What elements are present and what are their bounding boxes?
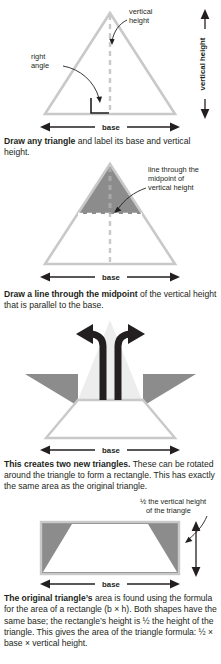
base-arrow-left: [40, 272, 50, 281]
base-label: base: [102, 123, 120, 132]
panel-1-caption: Draw any triangle and label its base and…: [0, 136, 221, 159]
panel-3-caption: This creates two new triangles. These ca…: [0, 459, 221, 493]
panel-3: base This creates two new triangles. The…: [0, 312, 221, 493]
panel-4-figure: ½ the vertical height of the triangle: [0, 493, 221, 591]
right-angle-callout-arrowhead: [96, 97, 102, 103]
panel-2-caption-bold: Draw a line through the midpoint: [4, 289, 138, 299]
panel-4-caption-bold: The original triangle’s: [4, 593, 93, 603]
panel-4-caption: The original triangle’s area is found us…: [0, 593, 221, 650]
base-arrow-right: [170, 272, 180, 281]
panel-1: vertical height right angle base: [0, 0, 221, 159]
base-arrow-right: [170, 579, 180, 588]
base-arrow-left: [40, 123, 50, 132]
panel-2: line through the midpoint of vertical he…: [0, 159, 221, 312]
right-angle-callout-leader: [63, 66, 99, 98]
half-height-callout-line2: of the triangle: [146, 506, 191, 515]
base-arrow-right: [170, 123, 180, 132]
panel-1-figure: vertical height right angle base: [0, 1, 221, 135]
vertical-height-callout-line2: height: [129, 16, 149, 25]
rotation-arrow-left-head: [76, 324, 93, 344]
midline-callout-line2: midpoint of: [148, 174, 185, 183]
midline-callout-line3: vertical height: [148, 183, 194, 192]
base-arrow-left: [40, 445, 50, 454]
diagram-page: vertical height right angle base: [0, 0, 221, 664]
base-label: base: [102, 580, 120, 589]
panel-3-base-dimension: base: [0, 442, 221, 458]
vertical-height-arrow-top: [201, 9, 210, 19]
vertical-height-arrow-bottom: [201, 109, 210, 119]
panel-3-caption-bold: This creates two new triangles.: [4, 459, 130, 469]
half-height-arrow-top: [192, 521, 201, 531]
base-label: base: [102, 446, 120, 455]
right-angle-callout-line1: right: [31, 52, 45, 61]
rotation-arrow-right-head: [128, 324, 145, 344]
panel-3-figure: [0, 312, 221, 442]
panel-2-figure: line through the midpoint of vertical he…: [0, 159, 221, 287]
panel-1-caption-bold: Draw any triangle: [4, 136, 75, 146]
trapezoid-outline: [46, 400, 175, 438]
panel-4: ½ the vertical height of the triangle: [0, 493, 221, 650]
base-arrow-right: [170, 445, 180, 454]
half-height-callout-line1: ½ the vertical height: [140, 497, 206, 506]
rotated-triangle-right: [143, 374, 196, 406]
rotated-triangle-left: [25, 374, 78, 406]
base-arrow-left: [40, 579, 50, 588]
vertical-height-callout-line1: vertical: [129, 7, 153, 16]
base-label: base: [102, 273, 120, 282]
half-height-callout-arrowhead: [185, 537, 192, 543]
half-height-arrow-bottom: [192, 567, 201, 577]
panel-2-caption: Draw a line through the midpoint of the …: [0, 289, 221, 312]
right-angle-callout-line2: angle: [31, 61, 49, 70]
vertical-height-axis-label: vertical height: [198, 37, 207, 90]
midline-callout-line1: line through the: [148, 165, 199, 174]
